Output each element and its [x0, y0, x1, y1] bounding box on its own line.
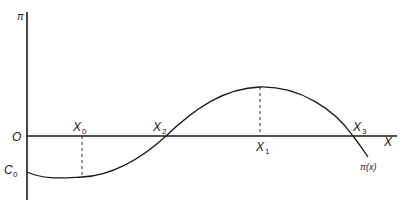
- svg-text:X: X: [352, 120, 362, 134]
- svg-text:0: 0: [13, 170, 18, 179]
- svg-text:X: X: [255, 140, 265, 154]
- y-axis-label: π: [17, 11, 24, 22]
- svg-text:X: X: [152, 120, 162, 134]
- svg-text:C: C: [4, 163, 13, 177]
- curve-label: π(x): [360, 162, 377, 172]
- x1-label: X 1: [255, 140, 270, 156]
- x2-label: X 2: [152, 120, 167, 136]
- svg-text:1: 1: [265, 147, 270, 156]
- x0-label: X 0: [72, 120, 87, 136]
- c0-label: C 0: [4, 163, 18, 179]
- svg-text:2: 2: [162, 127, 167, 136]
- svg-text:3: 3: [362, 127, 367, 136]
- x-axis-label: X: [383, 135, 393, 149]
- svg-text:0: 0: [82, 127, 87, 136]
- profit-function-diagram: π O X C 0 X 0 X 2 X 1 X 3 π(x): [0, 0, 410, 214]
- x3-label: X 3: [352, 120, 367, 136]
- origin-label: O: [12, 130, 21, 144]
- svg-text:X: X: [72, 120, 82, 134]
